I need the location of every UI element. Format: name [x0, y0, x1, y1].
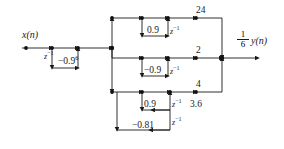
node-s3-a: [140, 90, 144, 94]
node-s3-in: [110, 90, 114, 94]
gain-24-label: 24: [196, 6, 206, 16]
output-gain-denominator: 6: [237, 40, 249, 49]
output-signal-label: y(n): [251, 36, 267, 46]
node-s1-in: [110, 16, 114, 20]
input-feedback-gain-label: −0.96: [58, 55, 78, 67]
graph-nodes: [24, 16, 224, 94]
node-in-b: [76, 46, 80, 50]
graph-edges: [22, 18, 258, 130]
output-gain-fraction: 1 6: [237, 30, 249, 50]
node-output-sum: [220, 56, 224, 60]
node-s1-b: [166, 16, 170, 20]
input-delay-label: z−1: [44, 50, 54, 61]
gain-0p9-upper-label: 0.9: [147, 26, 159, 36]
gain-neg0p81-label: −0.81: [132, 121, 154, 131]
node-s3-b: [168, 90, 172, 94]
delay-s3-b-label: z−1: [172, 116, 182, 127]
node-s2-b: [166, 56, 170, 60]
node-s2-c: [194, 56, 198, 60]
gain-0p9-lower-label: 0.9: [144, 100, 156, 110]
gain-4-label: 4: [196, 80, 201, 90]
delay-s3-a-label: z−1: [172, 98, 182, 109]
node-s1-c: [194, 16, 198, 20]
gain-3p6-label: 3.6: [190, 100, 202, 110]
signal-flow-graph-figure: x(n) z−1 −0.96 24 0.9 z−1 2 −0.9 z−1 4 0…: [0, 0, 284, 149]
gain-2-label: 2: [196, 46, 201, 56]
output-gain-numerator: 1: [237, 30, 249, 39]
node-split: [110, 46, 114, 50]
node-s3-c: [194, 90, 198, 94]
node-input: [24, 46, 28, 50]
gain-neg0p9-label: −0.9: [144, 66, 161, 76]
node-s1-a: [140, 16, 144, 20]
delay-s2-label: z−1: [170, 65, 180, 76]
delay-s1-label: z−1: [170, 25, 180, 36]
input-signal-label: x(n): [22, 30, 38, 40]
node-s2-a: [140, 56, 144, 60]
